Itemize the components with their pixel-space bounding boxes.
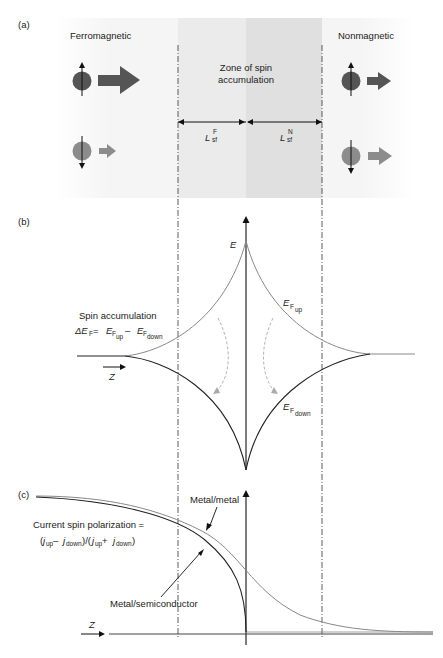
svg-text:)/(: )/( — [82, 535, 92, 546]
svg-text:sf: sf — [212, 136, 217, 143]
energy-axis-label: E — [230, 239, 237, 250]
ef-up-curve — [125, 241, 415, 356]
svg-text:+: + — [102, 535, 108, 546]
polarization-axis-arrow-icon — [243, 490, 250, 497]
svg-text:L: L — [205, 132, 210, 143]
zone-title-line2: accumulation — [218, 74, 274, 85]
svg-text:ΔE: ΔE — [74, 325, 88, 336]
polarization-formula: ( j up – j down )/( j up + j down ) — [40, 535, 135, 548]
zone-title-line1: Zone of spin — [220, 62, 272, 73]
svg-text:F: F — [290, 407, 294, 414]
svg-text:=: = — [93, 325, 99, 336]
spin-flip-arrowhead-left-icon — [213, 387, 220, 394]
spin-accumulation-title: Spin accumulation — [79, 310, 157, 321]
svg-text:down: down — [147, 333, 163, 340]
polarization-title: Current spin polarization = — [33, 519, 145, 530]
svg-text:): ) — [132, 535, 135, 546]
svg-text:–: – — [53, 535, 59, 546]
ferromagnetic-label: Ferromagnetic — [70, 30, 131, 41]
ef-up-label: E F up — [283, 297, 303, 314]
ef-down-label: E F down — [283, 401, 311, 417]
zone-right — [246, 18, 322, 198]
panel-c-label: (c) — [18, 489, 29, 500]
svg-text:down: down — [295, 410, 311, 417]
metal-metal-label: Metal/metal — [190, 494, 239, 505]
svg-text:–: – — [125, 325, 131, 336]
svg-text:down: down — [116, 540, 132, 547]
z-label-c: Z — [88, 619, 96, 630]
panel-b: (b) E E F up E F down Spin accumulation … — [18, 216, 415, 470]
svg-text:sf: sf — [287, 136, 292, 143]
metal-semiconductor-pointer — [161, 552, 201, 597]
metal-metal-curve — [36, 496, 433, 632]
nonmagnetic-label: Nonmagnetic — [338, 30, 394, 41]
panel-a: (a) Ferromagnetic Nonmagnetic Zone of sp… — [18, 18, 415, 198]
metal-semiconductor-label: Metal/semiconductor — [110, 598, 198, 609]
zone-left — [178, 18, 246, 198]
spin-flip-arrow-right — [263, 318, 275, 392]
metal-semiconductor-curve — [36, 497, 246, 632]
z-label-b: Z — [108, 371, 116, 382]
svg-text:down: down — [66, 540, 82, 547]
spin-flip-arrow-left — [216, 318, 228, 392]
svg-text:up: up — [116, 333, 124, 341]
ef-down-curve — [77, 354, 370, 470]
z-arrowhead-b-icon — [120, 364, 126, 370]
svg-text:L: L — [280, 132, 285, 143]
spin-accumulation-equation: ΔE F = E F up – E F down — [74, 325, 163, 341]
svg-text:E: E — [283, 297, 290, 308]
energy-axis-arrow-icon — [243, 216, 250, 223]
spin-flip-arrowhead-right-icon — [271, 387, 278, 394]
svg-text:E: E — [283, 401, 290, 412]
svg-text:F: F — [213, 128, 217, 135]
panel-b-label: (b) — [18, 216, 30, 227]
svg-text:up: up — [295, 306, 303, 314]
spin-accumulation-diagram: (a) Ferromagnetic Nonmagnetic Zone of sp… — [0, 0, 443, 658]
svg-text:N: N — [288, 128, 293, 135]
panel-c: (c) Metal/metal Metal/semiconductor Curr… — [18, 489, 433, 645]
svg-text:F: F — [290, 303, 294, 310]
panel-a-label: (a) — [18, 19, 30, 30]
z-arrowhead-c-icon — [99, 631, 105, 637]
